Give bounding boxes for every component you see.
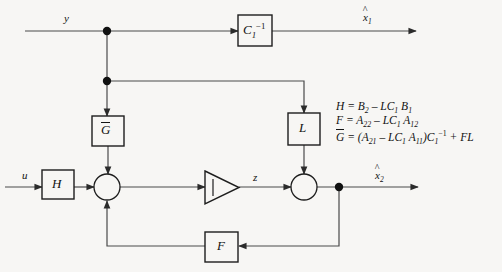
signal-label-y: y xyxy=(64,13,69,24)
summing-junction-1 xyxy=(94,174,120,200)
equation-g-bar: G = (A21 – LC1 A11)C1−1 + FL xyxy=(336,127,474,149)
block-diagram-figure: C1−1 G L H F y x1 u z x2 H = B2 – LC1 B1… xyxy=(0,0,502,272)
junction-dot-y-top xyxy=(103,27,111,35)
wire-f-to-sum1 xyxy=(107,201,205,246)
junction-dot-x2 xyxy=(335,183,343,191)
block-label-c1-inverse: C1−1 xyxy=(243,22,266,40)
block-label-h: H xyxy=(52,177,61,190)
integrator-block xyxy=(205,171,239,204)
block-label-l: L xyxy=(299,121,306,134)
block-label-f: F xyxy=(217,239,225,252)
junction-dot-y-branch xyxy=(103,77,111,85)
signal-label-x1-hat: x1 xyxy=(363,12,372,26)
signal-label-x2-hat: x2 xyxy=(375,170,384,184)
wire-y-branch-to-L xyxy=(107,81,304,113)
signal-label-u: u xyxy=(22,170,28,181)
summing-junction-2 xyxy=(291,174,317,200)
wire-x2-to-f xyxy=(239,187,339,246)
signal-label-z: z xyxy=(253,172,257,183)
block-label-g-bar: G xyxy=(101,123,110,136)
